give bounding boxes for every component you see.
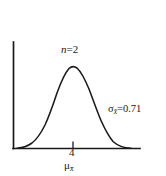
std-error-annotation: σx̄=0.71: [108, 104, 141, 116]
x-axis-variable-label: μx̄: [64, 160, 73, 173]
mu-subscript-xbar: x̄: [70, 164, 74, 173]
x-axis-tick-label: 4: [69, 147, 75, 158]
std-error-value: 0.71: [123, 103, 141, 114]
plot-canvas: [0, 0, 166, 176]
sample-size-value: 2: [73, 43, 79, 55]
normal-distribution-figure: n=2 σx̄=0.71 4 μx̄: [0, 0, 166, 176]
sample-size-annotation: n=2: [61, 44, 78, 55]
